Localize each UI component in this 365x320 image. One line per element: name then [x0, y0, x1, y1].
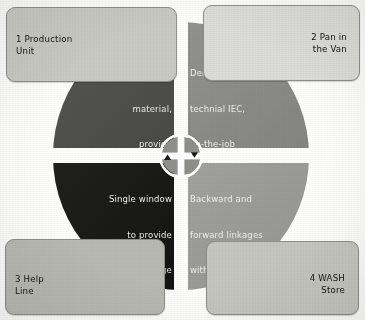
diagram-canvas: Production of material, provide technica… — [0, 0, 365, 320]
label-line: Unit — [16, 46, 167, 58]
label-box-help-line[interactable]: 3 Help Line — [5, 239, 165, 315]
quadrant-text-line: Single window — [109, 194, 172, 206]
label-line: Store — [216, 285, 345, 297]
quadrant-text-line: technial IEC, — [190, 104, 280, 116]
center-hub[interactable] — [158, 133, 204, 179]
label-box-pan-in-the-van-text: 2 Pan in the Van — [213, 13, 347, 55]
label-line: 1 Production — [16, 34, 167, 46]
label-box-help-line-text: 3 Help Line — [15, 247, 155, 297]
label-box-wash-store[interactable]: 4 WASH Store — [206, 241, 359, 315]
label-line: 2 Pan in — [213, 32, 347, 44]
four-way-circular-arrows-icon — [158, 133, 204, 179]
quadrant-text-line: material, — [114, 104, 172, 116]
label-line: 4 WASH — [216, 273, 345, 285]
label-box-production-unit-text: 1 Production Unit — [16, 15, 167, 57]
label-box-pan-in-the-van[interactable]: 2 Pan in the Van — [203, 5, 360, 81]
quadrant-text-line: forward linkages — [190, 230, 263, 242]
label-line: Line — [15, 286, 155, 298]
label-box-wash-store-text: 4 WASH Store — [216, 249, 345, 296]
quadrant-text-line: Backward and — [190, 194, 263, 206]
label-line: the Van — [213, 44, 347, 56]
label-box-production-unit[interactable]: 1 Production Unit — [6, 7, 177, 82]
label-line: 3 Help — [15, 274, 155, 286]
